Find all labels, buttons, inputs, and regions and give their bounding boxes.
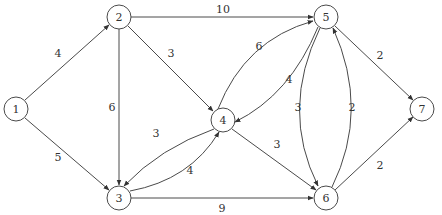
node-label: 2: [116, 11, 123, 24]
node-label: 4: [220, 114, 227, 127]
weight-4-5: 6: [256, 40, 263, 53]
edge-3-4: [130, 132, 219, 191]
weight-6-7: 2: [377, 159, 384, 172]
weight-4-3: 3: [153, 127, 160, 140]
node-label: 6: [323, 192, 330, 205]
weight-1-3: 5: [55, 151, 62, 164]
weight-2-5: 10: [216, 3, 230, 16]
node-label: 1: [13, 103, 20, 116]
weight-5-6: 3: [295, 101, 302, 114]
node-5: 5: [314, 5, 338, 29]
weight-5-7: 2: [377, 49, 384, 62]
weight-2-4: 3: [168, 47, 175, 60]
node-7: 7: [410, 97, 434, 121]
node-label: 3: [116, 192, 123, 205]
edge-5-6: [299, 28, 320, 186]
graph-diagram: 4 5 10 3 6 3 4 6 4 3 9 3 2 2 2 1 2 3 4: [0, 0, 442, 215]
node-label: 7: [419, 103, 426, 116]
node-4: 4: [211, 108, 235, 132]
weight-2-3: 6: [109, 101, 116, 114]
edge-2-4: [128, 26, 213, 111]
node-3: 3: [107, 186, 131, 210]
edge-5-7: [335, 26, 413, 100]
weight-6-5: 2: [349, 101, 356, 114]
weight-1-2: 4: [55, 47, 62, 60]
weight-3-6: 9: [219, 202, 226, 215]
edge-1-3: [25, 118, 109, 190]
weight-4-6: 3: [274, 138, 281, 151]
edge-6-7: [335, 117, 413, 190]
edge-4-3: [124, 129, 214, 186]
edge-5-4: [235, 27, 318, 122]
node-label: 5: [323, 11, 330, 24]
weight-3-4: 4: [187, 164, 194, 177]
node-2: 2: [107, 5, 131, 29]
node-6: 6: [314, 186, 338, 210]
edge-1-2: [25, 25, 109, 100]
node-1: 1: [4, 97, 28, 121]
weight-5-4: 4: [286, 73, 293, 86]
